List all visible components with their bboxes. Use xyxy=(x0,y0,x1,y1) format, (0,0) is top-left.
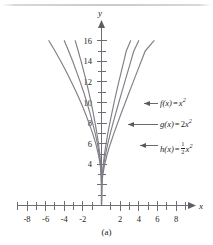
function-label-g-equals: = xyxy=(174,119,181,129)
x-tick-label-2: 2 xyxy=(118,214,122,224)
figure-panel-a: x y -8 - xyxy=(0,0,213,245)
y-tick-label-16: 16 xyxy=(84,36,93,46)
panel-caption: (a) xyxy=(0,227,213,237)
function-label-h-arg: (x) xyxy=(164,144,174,154)
function-label-h: h(x)=12x2 xyxy=(160,141,193,155)
function-label-f-equals: = xyxy=(172,98,179,108)
x-tick-label--6: -6 xyxy=(42,214,49,224)
y-tick-label-14: 14 xyxy=(84,56,93,66)
x-axis-arrowhead xyxy=(188,202,196,209)
x-tick-label--8: -8 xyxy=(23,214,30,224)
x-tick-label--2: -2 xyxy=(79,214,86,224)
leader-line-h xyxy=(140,143,158,148)
leader-line-g xyxy=(128,122,158,127)
x-axis-label: x xyxy=(198,201,203,211)
function-label-h-coefficient-fraction: 12 xyxy=(181,141,185,155)
y-tick-label-6: 6 xyxy=(88,139,92,149)
function-label-h-exponent: 2 xyxy=(189,142,192,149)
function-label-g-arg: (x) xyxy=(164,119,174,129)
x-tick-label-8: 8 xyxy=(174,214,178,224)
function-label-g: g(x)=2x2 xyxy=(160,120,192,129)
x-tick-label-6: 6 xyxy=(155,214,159,224)
function-label-h-equals: = xyxy=(174,144,181,154)
x-tick-label--4: -4 xyxy=(61,214,69,224)
x-tick-label-4: 4 xyxy=(137,214,142,224)
leader-line-f xyxy=(144,101,158,106)
y-tick-label-4: 4 xyxy=(88,159,93,169)
y-axis-arrowhead xyxy=(98,20,105,28)
function-label-g-exponent: 2 xyxy=(189,117,192,124)
function-label-f-arg: (x) xyxy=(162,98,172,108)
function-label-f-exponent: 2 xyxy=(183,96,186,103)
function-label-h-denominator: 2 xyxy=(181,149,185,156)
y-axis-label: y xyxy=(97,8,102,18)
function-label-f: f(x)=x2 xyxy=(160,99,186,108)
